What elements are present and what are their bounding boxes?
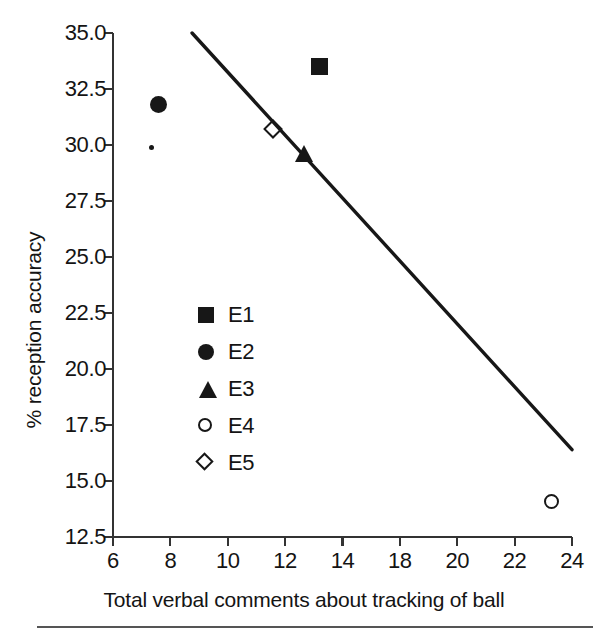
y-tick-label-32.5: 32.5 <box>22 78 106 100</box>
legend-item-E3[interactable]: E3 <box>196 370 306 407</box>
legend-swatch-E2 <box>196 342 222 362</box>
open-circle-marker-icon <box>544 494 559 509</box>
small-dot-marker-icon <box>149 145 154 150</box>
x-axis-tick-labels: 6810121418202224 <box>0 550 608 580</box>
legend-label-E3: E3 <box>228 378 254 400</box>
x-tick-label-20: 20 <box>427 550 487 572</box>
y-tick-label-35.0: 35.0 <box>22 22 106 44</box>
open-circle-marker-icon <box>198 418 212 432</box>
x-tick-label-6: 6 <box>83 550 143 572</box>
legend-item-E2[interactable]: E2 <box>196 333 306 370</box>
filled-circle-marker-icon <box>198 344 214 360</box>
legend-swatch-E5 <box>196 453 222 473</box>
legend-item-E5[interactable]: E5 <box>196 444 306 481</box>
x-axis-ticks <box>113 537 572 546</box>
x-tick-label-8: 8 <box>140 550 200 572</box>
x-tick-label-18: 18 <box>370 550 430 572</box>
x-tick-label-10: 10 <box>198 550 258 572</box>
x-axis-title: Total verbal comments about tracking of … <box>0 588 608 612</box>
legend-label-E4: E4 <box>228 415 254 437</box>
legend-swatch-E1 <box>196 305 222 325</box>
bottom-divider-rule <box>37 626 593 628</box>
legend-swatch-E3 <box>196 379 222 399</box>
axis-spines <box>113 33 572 537</box>
filled-square-marker-icon <box>311 58 328 75</box>
legend-label-E1: E1 <box>228 304 254 326</box>
x-tick-label-14: 14 <box>313 550 373 572</box>
x-tick-label-22: 22 <box>485 550 545 572</box>
figure: 12.515.017.520.022.525.027.530.032.535.0… <box>0 0 608 640</box>
legend-item-E1[interactable]: E1 <box>196 296 306 333</box>
legend-label-E2: E2 <box>228 341 254 363</box>
filled-square-marker-icon <box>198 307 214 323</box>
filled-triangle-marker-icon <box>295 145 313 162</box>
legend: E1E2E3E4E5 <box>196 296 306 481</box>
x-tick-label-24: 24 <box>542 550 602 572</box>
legend-label-E5: E5 <box>228 452 254 474</box>
filled-triangle-marker-icon <box>199 381 217 398</box>
open-diamond-marker-icon <box>195 452 213 470</box>
legend-swatch-E4 <box>196 416 222 436</box>
y-axis-title: % reception accuracy <box>22 130 46 530</box>
legend-item-E4[interactable]: E4 <box>196 407 306 444</box>
x-tick-label-12: 12 <box>255 550 315 572</box>
